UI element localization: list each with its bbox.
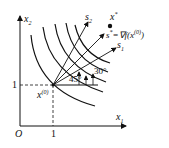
- x-axis-label: x1: [116, 112, 123, 124]
- y-axis-label: x2: [24, 14, 31, 26]
- optimum-point-label: x*: [110, 11, 117, 22]
- angle-45-label: 45°: [69, 75, 82, 84]
- start-point-label: x(0): [37, 89, 48, 100]
- gradient-direction-label: s*=∇f(x(0)): [106, 29, 144, 40]
- start-point: [52, 84, 55, 87]
- s1-label: s1: [117, 40, 124, 52]
- s2-label: s2: [85, 12, 92, 24]
- x-tick-1: 1: [51, 129, 56, 139]
- origin-label: O: [15, 129, 22, 139]
- y-tick-1: 1: [12, 80, 17, 90]
- angle-30-label: 30°: [94, 67, 107, 76]
- optimum-point: [108, 24, 112, 28]
